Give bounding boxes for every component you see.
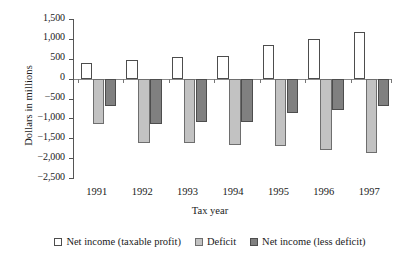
legend-label: Net income (taxable profit) [66, 236, 181, 247]
bar-group [81, 19, 117, 178]
bar-1993-series-3 [196, 79, 208, 122]
x-axis-tick-mark [78, 79, 79, 83]
x-axis-tick-label-1995: 1995 [256, 186, 301, 197]
legend-label: Deficit [207, 236, 236, 247]
legend-item-2: Deficit [195, 236, 236, 247]
bar-1996-series-3 [332, 79, 344, 111]
bar-1995-series-3 [287, 79, 299, 114]
bar-1991-series-3 [105, 79, 117, 107]
bar-group [308, 19, 344, 178]
y-axis-tick-label: −2,000 [37, 151, 65, 162]
bar-1997-series-3 [378, 79, 390, 107]
bar-1995-series-2 [275, 79, 287, 147]
legend-swatch-icon [195, 238, 203, 246]
bar-1997-series-2 [366, 79, 378, 154]
bar-1991-series-2 [93, 79, 105, 124]
x-axis-tick-mark [351, 79, 352, 83]
bar-1991-series-1 [81, 63, 93, 79]
x-axis-tick-label-1992: 1992 [119, 186, 164, 197]
bar-group [217, 19, 253, 178]
x-axis-tick-label-1993: 1993 [165, 186, 210, 197]
bar-1996-series-2 [320, 79, 332, 151]
y-axis-tick-label: −1,000 [37, 111, 65, 122]
legend-item-1: Net income (taxable profit) [54, 236, 181, 247]
bar-1993-series-1 [172, 57, 184, 78]
bar-1994-series-3 [241, 79, 253, 123]
y-axis-tick-mark [69, 39, 74, 40]
bar-1994-series-1 [217, 56, 229, 79]
y-axis-tick-label: 500 [50, 51, 65, 62]
x-axis-tick-mark [169, 79, 170, 83]
y-axis-tick-mark [69, 158, 74, 159]
bar-1992-series-3 [150, 79, 162, 124]
y-axis-tick-mark [69, 79, 74, 80]
x-axis-title: Tax year [0, 205, 420, 216]
y-axis-tick-label: −2,500 [37, 171, 65, 182]
x-axis-tick-mark [305, 79, 306, 83]
chart-legend: Net income (taxable profit)DeficitNet in… [0, 236, 420, 247]
x-axis-tick-label-1991: 1991 [74, 186, 119, 197]
bar-group [126, 19, 162, 178]
y-axis-tick-label: 1,000 [43, 31, 65, 42]
bar-1992-series-1 [126, 60, 138, 79]
bar-1994-series-2 [229, 79, 241, 146]
y-axis-tick-mark [69, 138, 74, 139]
bar-group [354, 19, 390, 178]
legend-swatch-icon [54, 238, 62, 246]
y-axis-tick-label: 0 [60, 71, 65, 82]
x-axis-tick-mark [391, 79, 392, 83]
y-axis-tick-mark [69, 178, 74, 179]
plot-area: 1,5001,0005000−500−1,000−1,500−2,000−2,5… [74, 19, 392, 178]
legend-item-3: Net income (less deficit) [250, 236, 366, 247]
legend-swatch-icon [250, 238, 258, 246]
bar-1992-series-2 [138, 79, 150, 143]
x-axis-tick-mark [260, 79, 261, 83]
bar-1993-series-2 [184, 79, 196, 143]
bar-group [263, 19, 299, 178]
y-axis-tick-mark [69, 118, 74, 119]
x-axis-tick-mark [214, 79, 215, 83]
x-axis-tick-label-1996: 1996 [301, 186, 346, 197]
bar-1996-series-1 [308, 39, 320, 79]
x-axis-tick-label-1994: 1994 [210, 186, 255, 197]
y-axis-tick-mark [69, 19, 74, 20]
x-axis-tick-label-1997: 1997 [347, 186, 392, 197]
y-axis-tick-mark [69, 99, 74, 100]
chart-figure: Dollars in millions 1,5001,0005000−500−1… [0, 0, 420, 265]
legend-label: Net income (less deficit) [262, 236, 366, 247]
y-axis-tick-label: 1,500 [43, 12, 65, 23]
y-axis-title: Dollars in millions [23, 31, 34, 181]
y-axis-tick-mark [69, 59, 74, 60]
x-axis-tick-mark [123, 79, 124, 83]
y-axis-tick-label: −1,500 [37, 131, 65, 142]
bar-1997-series-1 [354, 32, 366, 79]
bar-1995-series-1 [263, 45, 275, 78]
bar-group [172, 19, 208, 178]
y-axis-tick-label: −500 [45, 91, 65, 102]
